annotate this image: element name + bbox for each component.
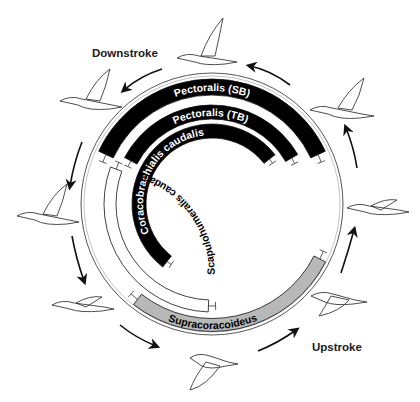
bird-right-icon — [347, 200, 409, 215]
supracoracoideus-range-tick — [320, 251, 324, 259]
arrow-bottom-left — [120, 325, 156, 346]
arrow-top-left — [124, 69, 162, 90]
pectoralis-sb-range-tick — [103, 155, 106, 163]
bird-left-icon — [17, 184, 79, 225]
wingbeat-muscle-diagram: Downstroke Upstroke Pectoralis (SB)Pecto… — [0, 0, 420, 402]
bird-upper-left-icon — [60, 69, 122, 110]
arrow-bottom-right — [258, 330, 296, 351]
scapulohumeralis-caudalis-range-tick — [116, 163, 119, 170]
bird-bottom-icon — [190, 354, 238, 390]
bird-upper-right-icon — [310, 78, 374, 119]
coracobrachialis-caudalis-range-tick — [270, 159, 273, 163]
pectoralis-tb-range-tick — [292, 158, 295, 164]
coracobrachialis-caudalis-range-tick — [167, 262, 171, 265]
arrow-right-upper — [346, 128, 357, 168]
bird-lower-right-icon — [311, 292, 367, 316]
supracoracoideus-range-tick — [131, 294, 137, 299]
arrow-top — [250, 66, 290, 85]
bird-lower-left-icon — [52, 297, 114, 312]
bird-top-icon — [177, 18, 237, 65]
arrow-left-upper — [70, 142, 82, 186]
arrow-left-lower — [72, 236, 84, 281]
pectoralis-sb-range-tick — [318, 155, 321, 163]
pectoralis-tb-range-tick — [128, 161, 131, 167]
arrow-right-lower — [341, 230, 354, 273]
